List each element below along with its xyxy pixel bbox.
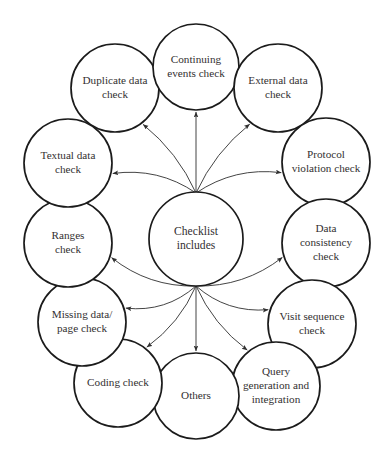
node-continuing-events-check-label-line: events check [167,67,225,79]
hub-checklist-includes-label-line: Checklist [174,224,219,237]
node-textual-data-check-label-line: Textual data [41,148,96,160]
edge-hub-to-query-generation-and-integration [196,286,247,350]
edge-hub-to-protocol-violation-check [196,172,281,193]
node-protocol-violation-check-label-line: violation check [292,162,361,174]
node-textual-data-check-label-line: check [55,163,81,175]
node-external-data-check-label-line: check [265,88,291,100]
node-external-data-check-label-line: External data [248,73,307,85]
node-missing-data-page-check-label-line: page check [57,322,107,334]
node-ranges-check-label-line: check [55,243,81,255]
hub-layer: Checklistincludes [149,192,243,286]
node-others-label-line: Others [181,389,211,401]
node-duplicate-data-check-label-line: check [102,88,128,100]
node-duplicate-data-check-label-line: Duplicate data [83,73,148,85]
node-data-consistency-check-label-line: consistency [300,236,353,248]
node-continuing-events-check-label-line: Continuing [171,52,222,64]
node-coding-check-label: Coding check [87,376,149,388]
node-visit-sequence-check-label-line: Visit sequence [280,309,345,321]
edge-hub-to-external-data-check [196,124,250,193]
hub-checklist-includes-label: Checklistincludes [174,224,219,252]
hub-checklist-includes-label-line: includes [177,239,216,252]
checklist-diagram: Duplicate datacheckContinuingevents chec… [0,0,392,461]
node-missing-data-page-check-label-line: Missing data/ [52,307,113,319]
node-query-generation-and-integration-label-line: generation and [243,379,310,391]
edge-hub-to-duplicate-data-check [143,124,196,193]
node-ranges-check-label-line: Ranges [52,228,85,240]
node-query-generation-and-integration-label-line: integration [252,393,301,405]
node-coding-check-label-line: Coding check [87,376,149,388]
node-visit-sequence-check-label-line: check [299,324,325,336]
edge-hub-to-coding-check [147,286,196,347]
node-data-consistency-check-label-line: check [313,250,339,262]
node-query-generation-and-integration-label-line: Query [262,364,290,376]
node-protocol-violation-check-label-line: Protocol [307,147,345,159]
edge-hub-to-textual-data-check [113,172,196,193]
node-data-consistency-check-label-line: Data [315,221,336,233]
diagram-canvas: Duplicate datacheckContinuingevents chec… [0,0,392,461]
node-others-label: Others [181,389,211,401]
